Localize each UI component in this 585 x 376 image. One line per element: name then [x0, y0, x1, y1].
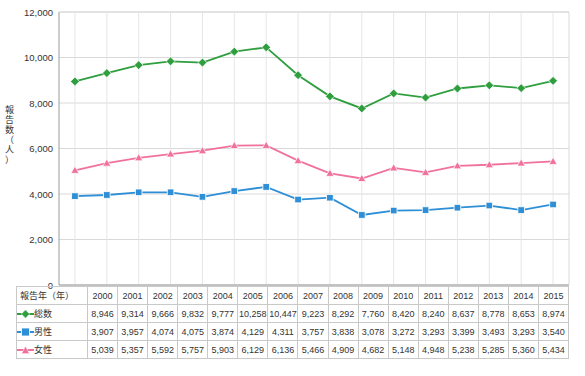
table-cell: 3,757: [298, 323, 328, 341]
data-point-男性-2000: [72, 193, 79, 200]
table-col-header: 2008: [328, 287, 358, 305]
table-cell: 9,832: [178, 305, 208, 323]
table-cell: 5,285: [478, 341, 508, 359]
data-point-男性-2005: [231, 188, 238, 195]
chart-figure: 報 告 数 （ 人 ） 02,0004,0006,0008,00010,0001…: [0, 0, 585, 376]
data-point-男性-2015: [550, 201, 557, 208]
table-header-row: 報告年（年） 200020012002200320042005200620072…: [17, 287, 569, 305]
legend-diamond-icon: [21, 309, 30, 318]
table-cell: 3,907: [88, 323, 118, 341]
table-cell: 5,360: [508, 341, 538, 359]
data-point-男性-2002: [135, 189, 142, 196]
y-tick-label: 8,000: [29, 98, 53, 109]
table-cell: 8,653: [508, 305, 538, 323]
table-cell: 5,039: [88, 341, 118, 359]
table-cell: 4,909: [328, 341, 358, 359]
table-row: 女性5,0395,3575,5925,7575,9036,1296,1365,4…: [17, 341, 569, 359]
table-cell: 4,075: [178, 323, 208, 341]
table-cell: 3,540: [538, 323, 568, 341]
table-cell: 5,757: [178, 341, 208, 359]
table-cell: 4,129: [238, 323, 268, 341]
legend-square-icon: [21, 327, 30, 336]
table-cell: 4,948: [418, 341, 448, 359]
table-cell: 3,874: [208, 323, 238, 341]
data-point-男性-2008: [327, 194, 334, 201]
series-name: 女性: [34, 345, 52, 355]
table-cell: 3,272: [388, 323, 418, 341]
table-row: 男性3,9073,9574,0744,0753,8744,1294,3113,7…: [17, 323, 569, 341]
chart-plot-area: 報 告 数 （ 人 ） 02,0004,0006,0008,00010,0001…: [0, 0, 585, 300]
data-point-男性-2010: [390, 207, 397, 214]
table-cell: 9,223: [298, 305, 328, 323]
data-point-男性-2001: [104, 192, 111, 199]
table-cell: 6,129: [238, 341, 268, 359]
table-col-header: 2002: [148, 287, 178, 305]
table-row-header-男性: 男性: [17, 323, 88, 341]
table-header-label: 報告年（年）: [17, 287, 88, 305]
data-point-男性-2006: [263, 184, 270, 191]
y-tick-label: 10,000: [24, 52, 53, 63]
table-cell: 3,078: [358, 323, 388, 341]
data-point-男性-2013: [486, 202, 493, 209]
table-cell: 9,777: [208, 305, 238, 323]
y-tick-label: 4,000: [29, 189, 53, 200]
data-point-男性-2004: [199, 194, 206, 201]
data-point-男性-2003: [167, 189, 174, 196]
table-cell: 4,311: [268, 323, 298, 341]
table-col-header: 2014: [508, 287, 538, 305]
table-col-header: 2003: [178, 287, 208, 305]
series-name: 男性: [34, 327, 52, 337]
table-cell: 8,974: [538, 305, 568, 323]
table-cell: 7,760: [358, 305, 388, 323]
table-cell: 6,136: [268, 341, 298, 359]
table-cell: 9,314: [118, 305, 148, 323]
table-cell: 8,946: [88, 305, 118, 323]
table-col-header: 2004: [208, 287, 238, 305]
table-col-header: 2013: [478, 287, 508, 305]
table-cell: 8,292: [328, 305, 358, 323]
table-cell: 3,957: [118, 323, 148, 341]
table-col-header: 2009: [358, 287, 388, 305]
table-cell: 10,258: [238, 305, 268, 323]
table-cell: 10,447: [268, 305, 298, 323]
table-cell: 8,637: [448, 305, 478, 323]
table-col-header: 2005: [238, 287, 268, 305]
table-cell: 5,434: [538, 341, 568, 359]
table-cell: 4,074: [148, 323, 178, 341]
y-tick-label: 2,000: [29, 234, 53, 245]
data-table: 報告年（年） 200020012002200320042005200620072…: [16, 286, 569, 359]
table-cell: 8,420: [388, 305, 418, 323]
y-tick-label: 12,000: [24, 7, 53, 18]
table-cell: 5,238: [448, 341, 478, 359]
table-body: 報告年（年） 200020012002200320042005200620072…: [17, 287, 569, 359]
table-cell: 5,148: [388, 341, 418, 359]
table-col-header: 2012: [448, 287, 478, 305]
data-point-男性-2011: [422, 207, 429, 214]
data-point-男性-2009: [359, 212, 366, 219]
data-point-男性-2014: [518, 207, 525, 214]
table-row-header-女性: 女性: [17, 341, 88, 359]
table-col-header: 2006: [268, 287, 298, 305]
chart-data-table: 報告年（年） 200020012002200320042005200620072…: [16, 286, 569, 359]
table-col-header: 2001: [118, 287, 148, 305]
table-cell: 5,357: [118, 341, 148, 359]
table-cell: 5,903: [208, 341, 238, 359]
data-point-男性-2012: [454, 204, 461, 211]
table-row-header-総数: 総数: [17, 305, 88, 323]
table-cell: 3,838: [328, 323, 358, 341]
table-cell: 3,293: [508, 323, 538, 341]
table-row: 総数8,9469,3149,6669,8329,77710,25810,4479…: [17, 305, 569, 323]
table-col-header: 2011: [418, 287, 448, 305]
data-point-男性-2007: [295, 196, 302, 203]
table-cell: 8,778: [478, 305, 508, 323]
y-tick-label: 6,000: [29, 143, 53, 154]
legend-triangle-icon: [21, 345, 30, 354]
table-cell: 3,399: [448, 323, 478, 341]
table-cell: 3,493: [478, 323, 508, 341]
table-cell: 9,666: [148, 305, 178, 323]
series-name: 総数: [34, 309, 52, 319]
table-cell: 5,466: [298, 341, 328, 359]
line-chart-svg: 02,0004,0006,0008,00010,00012,000: [0, 0, 585, 300]
table-cell: 8,240: [418, 305, 448, 323]
table-col-header: 2010: [388, 287, 418, 305]
